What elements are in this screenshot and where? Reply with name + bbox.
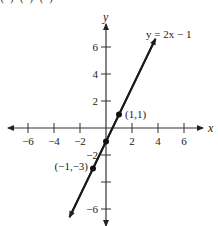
line-chart: xy−6−4−2246642−2−6(1,1)(−1,−3)y = 2x − 1 [0,0,218,226]
y-tick-label: 4 [93,68,99,80]
y-tick-label: 2 [93,95,99,107]
data-point [116,112,122,118]
axes [8,24,203,226]
x-axis-label: x [207,121,214,135]
y-tick-label: −2 [86,149,98,161]
y-tick-label: −6 [86,203,98,215]
x-tick-label: 4 [155,135,161,147]
x-tick-label: −6 [22,135,34,147]
equation-label: y = 2x − 1 [146,28,191,40]
x-tick-label: 2 [129,135,135,147]
y-tick-label: 6 [93,41,99,53]
x-tick-label: 6 [181,135,187,147]
x-tick-label: −4 [48,135,60,147]
y-axis-label: y [102,10,109,24]
point-label-1-1: (1,1) [125,108,146,121]
point-label-neg1-neg3: (−1,−3) [55,160,89,173]
data-point [103,139,109,145]
data-point [90,166,96,172]
x-tick-label: −2 [74,135,86,147]
